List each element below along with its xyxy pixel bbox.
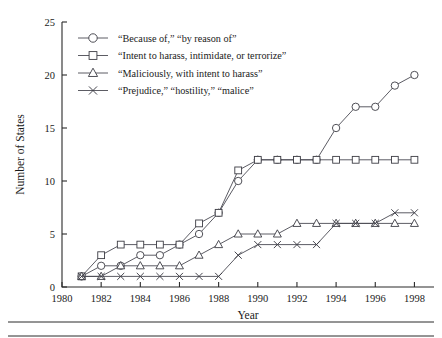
series-1-marker <box>294 156 301 163</box>
series-0-marker <box>195 230 202 237</box>
series-1-marker <box>215 209 222 216</box>
series-1-marker <box>254 156 261 163</box>
x-tick-label: 1980 <box>52 293 73 304</box>
legend-marker-2 <box>88 68 97 76</box>
series-0-marker <box>372 103 379 110</box>
series-2-marker <box>254 230 262 237</box>
series-1-marker <box>98 252 105 259</box>
x-tick-label: 1996 <box>365 293 386 304</box>
series-3-marker <box>235 252 242 259</box>
y-tick-label: 0 <box>50 282 55 293</box>
series-2-marker <box>391 219 399 226</box>
y-tick-label: 25 <box>45 17 56 28</box>
series-0-marker <box>137 252 144 259</box>
x-tick-label: 1998 <box>404 293 425 304</box>
series-1-marker <box>137 241 144 248</box>
series-line-0 <box>82 75 415 276</box>
legend-label-1: “Intent to harass, intimidate, or terror… <box>118 50 287 61</box>
legend-label-0: “Because of,” “by reason of” <box>118 33 237 44</box>
y-tick-label: 20 <box>45 70 56 81</box>
y-axis-title: Number of States <box>14 114 26 195</box>
series-2-marker <box>313 219 321 226</box>
y-tick-label: 10 <box>45 176 56 187</box>
series-1-marker <box>274 156 281 163</box>
series-line-1 <box>82 160 415 277</box>
legend-label-2: “Maliciously, with intent to harass” <box>118 68 263 79</box>
series-2-marker <box>156 262 164 269</box>
legend-label-3: “Prejudice,” “hostility,” “malice” <box>118 85 254 96</box>
y-tick-label: 5 <box>50 229 55 240</box>
x-tick-label: 1984 <box>130 293 152 304</box>
series-2-marker <box>273 230 281 237</box>
series-1-marker <box>156 241 163 248</box>
x-tick-label: 1992 <box>286 293 307 304</box>
x-tick-label: 1994 <box>326 293 348 304</box>
series-0-marker <box>411 71 418 78</box>
y-tick-label: 15 <box>45 123 56 134</box>
series-1-marker <box>176 241 183 248</box>
series-2-marker <box>293 219 301 226</box>
series-0-marker <box>352 103 359 110</box>
legend-marker-1 <box>89 52 97 60</box>
series-1-marker <box>333 156 340 163</box>
series-2-marker <box>410 219 418 226</box>
series-1-marker <box>411 156 418 163</box>
series-2-marker <box>234 230 242 237</box>
series-2-marker <box>215 240 223 247</box>
series-1-marker <box>117 241 124 248</box>
series-2-marker <box>175 262 183 269</box>
series-1-marker <box>352 156 359 163</box>
series-1-marker <box>313 156 320 163</box>
chart-figure: 0510152025198019821984198619881990199219… <box>0 0 442 338</box>
series-1-marker <box>372 156 379 163</box>
series-2-marker <box>195 251 203 258</box>
series-0-marker <box>235 177 242 184</box>
x-tick-label: 1986 <box>169 293 190 304</box>
series-2-marker <box>136 262 144 269</box>
x-tick-label: 1988 <box>208 293 229 304</box>
legend-marker-0 <box>89 34 97 42</box>
series-1-marker <box>391 156 398 163</box>
line-chart-svg: 0510152025198019821984198619881990199219… <box>0 0 442 338</box>
series-0-marker <box>332 124 339 131</box>
series-1-marker <box>235 167 242 174</box>
series-0-marker <box>97 262 104 269</box>
x-axis-title: Year <box>237 309 258 321</box>
series-0-marker <box>391 82 398 89</box>
series-0-marker <box>156 252 163 259</box>
x-tick-label: 1990 <box>247 293 268 304</box>
x-tick-label: 1982 <box>91 293 112 304</box>
series-1-marker <box>196 220 203 227</box>
